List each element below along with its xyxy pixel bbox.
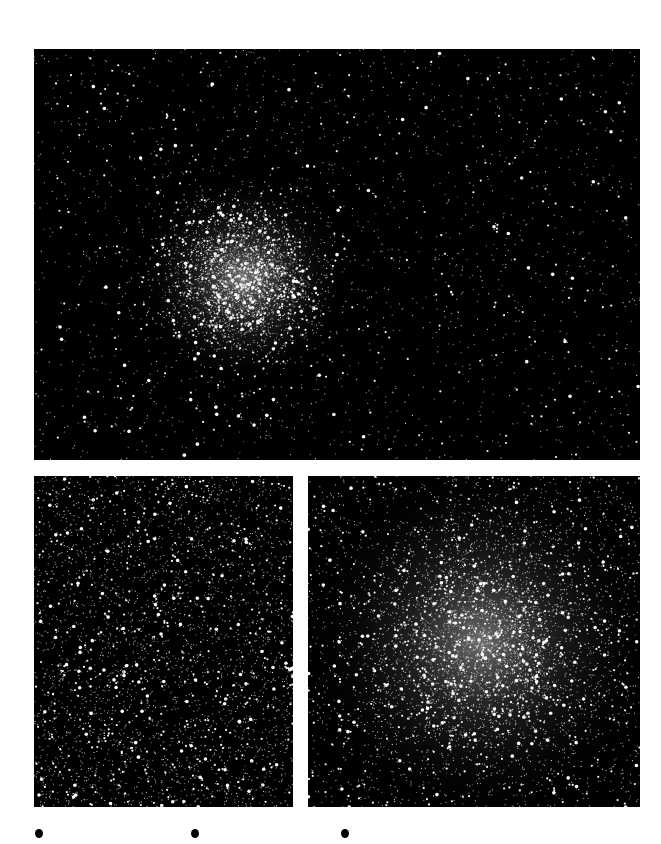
bullet-point-icon (35, 829, 43, 838)
outer-field-image (34, 476, 293, 807)
wide-field-cluster-image (34, 49, 640, 460)
star-field-canvas (34, 49, 640, 460)
star-field-canvas (34, 476, 293, 807)
bullet-point-icon (191, 829, 199, 838)
bullet-point-icon (341, 829, 349, 838)
star-field-canvas (308, 476, 640, 807)
cluster-core-image (308, 476, 640, 807)
